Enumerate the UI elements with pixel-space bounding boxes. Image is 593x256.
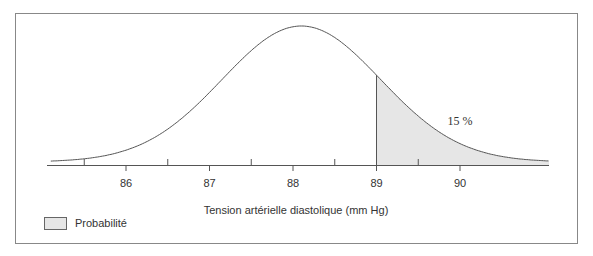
tick-label: 88 — [287, 177, 299, 189]
x-axis-title: Tension artérielle diastolique (mm Hg) — [204, 204, 389, 216]
tick-label: 90 — [454, 177, 466, 189]
legend-label: Probabilité — [75, 217, 127, 229]
probability-annotation: 15 % — [448, 114, 473, 128]
legend-swatch — [45, 218, 67, 230]
tick-label: 89 — [370, 177, 382, 189]
tick-label: 86 — [120, 177, 132, 189]
chart: 8687888990 15 % Tension artérielle diast… — [0, 0, 593, 256]
tick-label: 87 — [203, 177, 215, 189]
